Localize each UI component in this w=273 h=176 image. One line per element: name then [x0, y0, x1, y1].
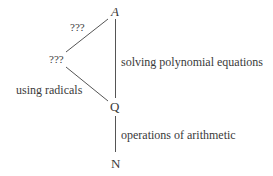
edge-label-solving-polynomial-equations: solving polynomial equations	[121, 56, 263, 68]
node-rationals: Q	[110, 100, 119, 113]
node-unknown: ???	[49, 54, 64, 65]
node-naturals: N	[111, 157, 120, 170]
edge-label-unknown: ???	[70, 22, 85, 33]
node-algebraic-numbers: A	[111, 5, 119, 18]
edge-label-operations-of-arithmetic: operations of arithmetic	[121, 129, 236, 141]
edge-label-using-radicals: using radicals	[16, 84, 82, 96]
